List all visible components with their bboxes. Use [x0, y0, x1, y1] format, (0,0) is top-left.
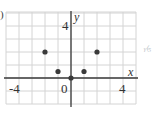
- x-axis-label: x: [128, 66, 133, 78]
- handwritten-note: ᵧ₍₅: [144, 40, 150, 53]
- y-tick-4: 4: [62, 19, 69, 32]
- y-axis-label: y: [74, 11, 79, 23]
- x-tick-neg4: -4: [9, 82, 20, 95]
- data-point: [81, 69, 86, 74]
- x-tick-4: 4: [119, 82, 126, 95]
- data-point: [68, 75, 73, 80]
- data-point: [94, 49, 99, 54]
- axes: [4, 11, 138, 107]
- x-tick-0: 0: [61, 82, 68, 95]
- scatter-plot: [0, 0, 166, 113]
- data-point: [42, 49, 47, 54]
- data-point: [55, 69, 60, 74]
